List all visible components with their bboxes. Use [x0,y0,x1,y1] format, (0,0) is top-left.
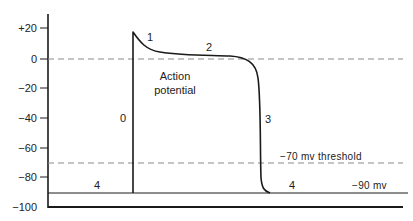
action-potential-curve [133,32,270,193]
phase-3-label: 3 [265,113,271,125]
resting-potential-label: −90 mv [352,180,387,191]
curve-title-line2: potential [154,84,196,96]
phase-4-right-label: 4 [289,179,295,191]
phase-2-label: 2 [206,41,212,53]
y-tick-label: −40 [18,112,37,124]
phase-0-label: 0 [120,112,126,124]
phase-4-left-label: 4 [94,179,100,191]
action-potential-chart: +20 0 −20 −40 −60 −80 −100 0 1 2 3 4 4 A… [0,0,413,221]
y-tick-label: −20 [18,82,37,94]
y-ticks [40,28,48,177]
y-tick-label: −80 [18,171,37,183]
curve-title-line1: Action [160,70,191,82]
y-tick-label: −100 [12,201,37,213]
threshold-label: −70 mv threshold [280,151,362,162]
y-tick-label: +20 [18,22,37,34]
y-tick-label: −60 [18,142,37,154]
phase-1-label: 1 [147,31,153,43]
y-tick-label: 0 [31,53,37,65]
